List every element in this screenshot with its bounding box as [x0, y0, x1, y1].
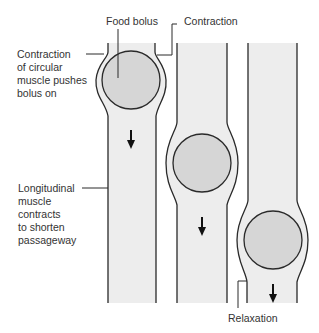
label-contraction: Contraction [184, 15, 238, 28]
label-longitudinal-muscle: Longitudinal muscle contracts to shorten… [18, 182, 76, 247]
food-bolus-3 [244, 211, 302, 269]
tube-stage-1 [96, 43, 166, 303]
tube-stage-2 [166, 43, 238, 303]
label-food-bolus: Food bolus [106, 15, 158, 28]
label-relaxation: Relaxation [228, 312, 278, 325]
food-bolus-1 [102, 51, 160, 109]
food-bolus-2 [173, 134, 231, 192]
tube-stage-3 [237, 43, 308, 303]
label-circular-muscle: Contraction of circular muscle pushes bo… [17, 48, 87, 100]
